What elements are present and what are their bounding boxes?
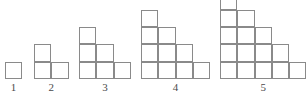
staircase-shape	[220, 0, 307, 79]
staircase-shape	[79, 27, 131, 79]
unit-square	[237, 10, 254, 27]
figure-label-2: 2	[31, 81, 71, 93]
unit-square	[237, 27, 254, 44]
unit-square	[176, 62, 193, 79]
figure-label-4: 4	[156, 81, 196, 93]
unit-square	[141, 62, 158, 79]
figure-label-1: 1	[0, 81, 34, 93]
unit-square	[220, 0, 237, 10]
unit-square	[51, 62, 68, 79]
unit-square	[255, 27, 272, 44]
unit-square	[34, 62, 51, 79]
unit-square	[237, 62, 254, 79]
unit-square	[158, 44, 175, 61]
unit-square	[141, 44, 158, 61]
unit-square	[96, 62, 113, 79]
unit-square	[255, 44, 272, 61]
figure-label-3: 3	[85, 81, 125, 93]
unit-square	[220, 27, 237, 44]
unit-square	[272, 62, 289, 79]
figure-5	[220, 0, 307, 79]
staircase-shape	[141, 10, 210, 79]
unit-square	[141, 10, 158, 27]
unit-square	[79, 62, 96, 79]
unit-square	[79, 27, 96, 44]
figure-1	[5, 62, 22, 79]
unit-square	[5, 62, 22, 79]
staircase-shape	[34, 44, 69, 79]
unit-square	[176, 44, 193, 61]
unit-square	[255, 62, 272, 79]
unit-square	[158, 27, 175, 44]
unit-square	[193, 62, 210, 79]
unit-square	[272, 44, 289, 61]
figure-4	[141, 10, 210, 79]
unit-square	[237, 44, 254, 61]
unit-square	[79, 44, 96, 61]
figure-label-5: 5	[243, 81, 283, 93]
staircase-sequence-diagram: 12345	[0, 0, 307, 93]
unit-square	[141, 27, 158, 44]
unit-square	[220, 62, 237, 79]
unit-square	[220, 10, 237, 27]
figure-2	[34, 44, 69, 79]
staircase-shape	[5, 62, 22, 79]
unit-square	[114, 62, 131, 79]
unit-square	[96, 44, 113, 61]
unit-square	[289, 62, 306, 79]
figure-3	[79, 27, 131, 79]
unit-square	[158, 62, 175, 79]
unit-square	[220, 44, 237, 61]
unit-square	[34, 44, 51, 61]
